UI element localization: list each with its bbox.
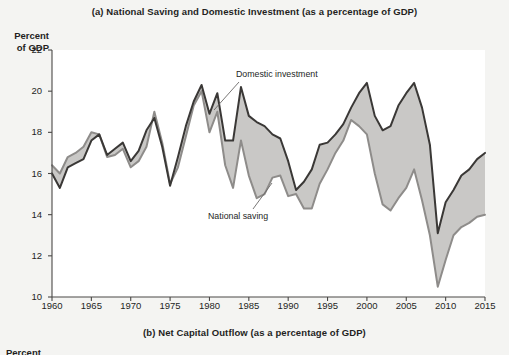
y-tick-label: 18	[16, 126, 42, 137]
x-tick-label: 1965	[71, 300, 111, 311]
plot-area: 10121416182022 1960196519701975198019851…	[0, 0, 509, 355]
x-tick-label: 2005	[386, 300, 426, 311]
y-tick-label: 16	[16, 168, 42, 179]
y-tick-label: 22	[16, 44, 42, 55]
x-tick-label: 1995	[308, 300, 348, 311]
y-tick-label: 12	[16, 250, 42, 261]
x-tick-label: 1985	[229, 300, 269, 311]
x-tick-label: 1970	[111, 300, 151, 311]
x-tick-label: 1975	[150, 300, 190, 311]
y-tick-label: 20	[16, 85, 42, 96]
panel-b-title: (b) Net Capital Outflow (as a percentage…	[0, 327, 509, 338]
x-tick-label: 2000	[347, 300, 387, 311]
figure-panel-a: (a) National Saving and Domestic Investm…	[0, 0, 509, 355]
y-tick-label: 14	[16, 209, 42, 220]
annotation-national-saving: National saving	[208, 211, 268, 221]
x-tick-label: 2010	[426, 300, 466, 311]
x-tick-label: 2015	[465, 300, 505, 311]
annotation-domestic-investment: Domestic investment	[236, 69, 318, 79]
x-tick-label: 1990	[268, 300, 308, 311]
x-tick-label: 1960	[32, 300, 72, 311]
panel-b-axis-caption: Percent	[6, 347, 66, 355]
x-tick-label: 1980	[189, 300, 229, 311]
